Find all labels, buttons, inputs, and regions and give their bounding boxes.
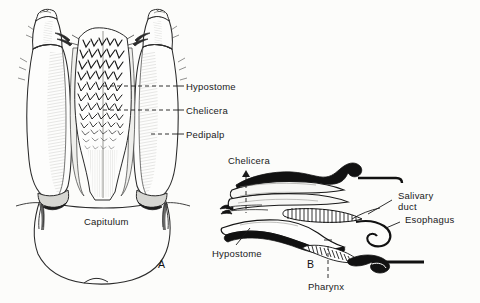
label-salivary-duct-line1: Salivary bbox=[398, 190, 433, 201]
esophagus-tube bbox=[356, 221, 390, 246]
hypostome-dorsal bbox=[71, 28, 135, 200]
label-capitulum: Capitulum bbox=[84, 216, 129, 227]
label-chelicera-a: Chelicera bbox=[186, 105, 228, 116]
panel-letter-a: A bbox=[158, 259, 165, 270]
pharynx-lumen bbox=[283, 209, 362, 223]
panel-a-artwork bbox=[16, 9, 190, 284]
label-salivary-duct-line2: duct bbox=[398, 201, 417, 212]
panel-b-artwork bbox=[220, 163, 424, 281]
leader-b-esophagus bbox=[386, 222, 400, 228]
label-chelicera-b: Chelicera bbox=[228, 155, 270, 166]
capitulum-base bbox=[34, 199, 170, 284]
label-pedipalp-a: Pedipalp bbox=[186, 129, 225, 140]
label-salivary-duct: Salivary duct bbox=[398, 190, 450, 212]
label-pharynx: Pharynx bbox=[308, 281, 344, 292]
panel-letter-b: B bbox=[307, 259, 314, 270]
posterior-body-wall bbox=[347, 255, 389, 273]
chelicera-arrowhead bbox=[242, 170, 250, 177]
dorsal-body-wall-line bbox=[358, 178, 402, 183]
label-hypostome-a: Hypostome bbox=[186, 81, 236, 92]
label-hypostome-b: Hypostome bbox=[212, 248, 262, 259]
label-esophagus: Esophagus bbox=[405, 214, 454, 225]
pedipalp-left bbox=[18, 9, 71, 209]
anatomical-figure: Hypostome Chelicera Pedipalp Capitulum A… bbox=[0, 0, 480, 303]
leader-b-salivary-duct bbox=[368, 200, 392, 214]
pedipalp-right bbox=[134, 9, 187, 209]
